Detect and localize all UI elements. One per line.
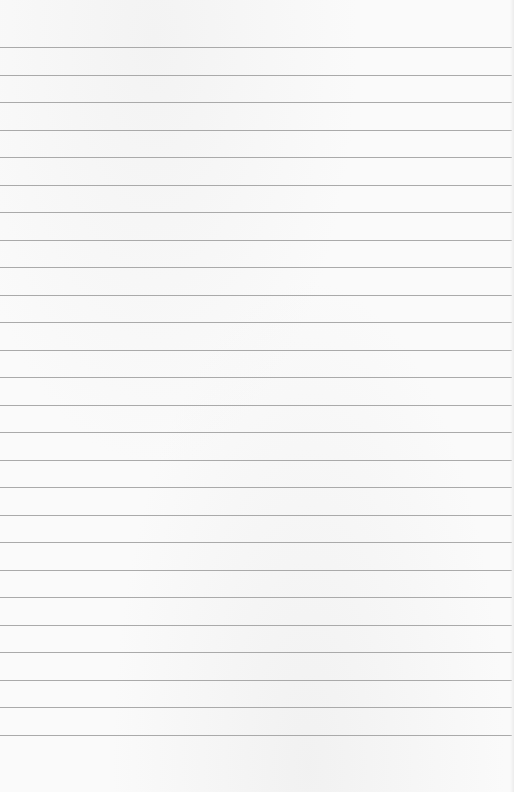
ruled-line: [0, 377, 512, 378]
ruled-line: [0, 295, 512, 296]
ruled-line: [0, 240, 512, 241]
ruled-line: [0, 432, 512, 433]
ruled-line: [0, 625, 512, 626]
ruled-line: [0, 102, 512, 103]
paper-edge: [510, 0, 514, 792]
ruled-line: [0, 680, 512, 681]
ruled-line: [0, 405, 512, 406]
ruled-line: [0, 47, 512, 48]
ruled-line: [0, 130, 512, 131]
ruled-line: [0, 515, 512, 516]
ruled-line: [0, 597, 512, 598]
ruled-line: [0, 542, 512, 543]
ruled-line: [0, 267, 512, 268]
lined-paper: [0, 0, 514, 792]
ruled-line: [0, 570, 512, 571]
ruled-line: [0, 75, 512, 76]
ruled-line: [0, 350, 512, 351]
ruled-line: [0, 707, 512, 708]
ruled-line: [0, 735, 512, 736]
ruled-line: [0, 652, 512, 653]
ruled-line: [0, 460, 512, 461]
ruled-line: [0, 185, 512, 186]
ruled-line: [0, 157, 512, 158]
ruled-line: [0, 322, 512, 323]
ruled-line: [0, 487, 512, 488]
ruled-line: [0, 212, 512, 213]
